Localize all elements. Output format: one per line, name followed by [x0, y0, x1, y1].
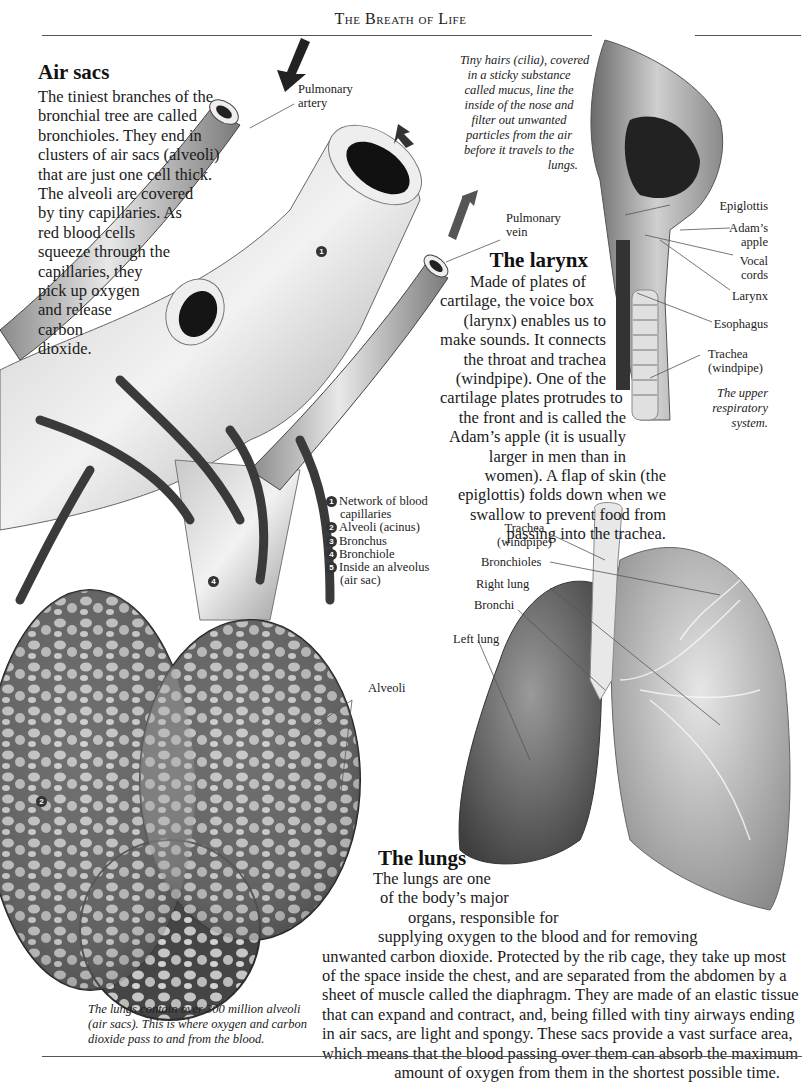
- footer-rule: [42, 1056, 802, 1057]
- label-esophagus: Esophagus: [690, 318, 768, 332]
- label-epiglottis: Epiglottis: [700, 200, 768, 214]
- label-larynx: Larynx: [700, 290, 768, 304]
- figure-marker-4: 4: [208, 575, 221, 588]
- larynx-text: Made of plates of cartilage, the voice b…: [440, 272, 666, 544]
- cilia-caption: Tiny hairs (cilia), covered in a sticky …: [460, 53, 578, 173]
- label-vocal-cords: Vocal cords: [700, 255, 768, 282]
- running-title: The Breath of Life: [0, 10, 801, 28]
- figure-key: 1Network of blood capillaries 2Alveoli (…: [326, 495, 429, 587]
- upper-respiratory-caption: The upper respiratory system.: [690, 386, 768, 431]
- label-bronchi: Bronchi: [474, 599, 514, 613]
- alveoli-caption: The lungs contain over 300 million alveo…: [88, 1002, 307, 1047]
- figure-marker-2: 2: [36, 795, 49, 808]
- label-adams-apple: Adam’s apple: [700, 222, 768, 249]
- label-left-lung: Left lung: [453, 633, 499, 647]
- label-alveoli: Alveoli: [368, 682, 406, 696]
- lungs-heading-wrap: The lungs: [378, 846, 466, 871]
- figure-marker-1: 1: [316, 245, 329, 258]
- larynx-heading-wrap: The larynx: [440, 248, 588, 273]
- lungs-text: The lungs are one of the body’s major or…: [322, 869, 780, 1082]
- label-right-lung: Right lung: [476, 578, 529, 592]
- label-trachea-lungs: Trachea (windpipe): [497, 522, 552, 549]
- label-bronchioles: Bronchioles: [481, 556, 541, 570]
- header-rule-left: [42, 35, 592, 36]
- label-pulmonary-vein: Pulmonary vein: [506, 212, 561, 239]
- label-pulmonary-artery: Pulmonary artery: [298, 83, 353, 110]
- air-sacs-text: The tiniest branches of the bronchial tr…: [38, 87, 219, 359]
- header-rule-right: [695, 35, 801, 36]
- air-sacs-heading: Air sacs: [38, 60, 219, 85]
- larynx-heading: The larynx: [440, 248, 588, 273]
- lungs-heading: The lungs: [378, 846, 466, 871]
- air-sacs-section: Air sacs The tiniest branches of the bro…: [38, 60, 219, 359]
- label-trachea-upper: Trachea (windpipe): [708, 348, 763, 375]
